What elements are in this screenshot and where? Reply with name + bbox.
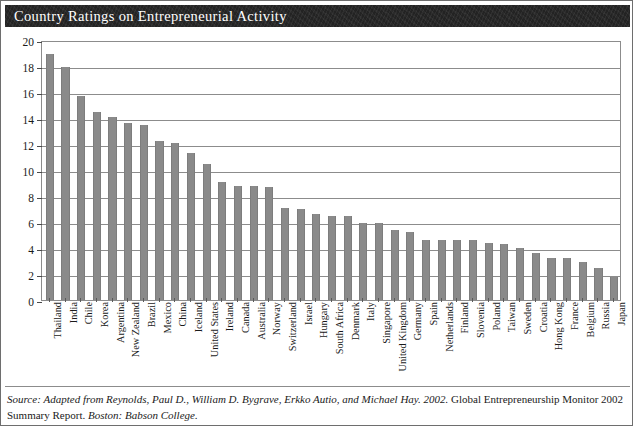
bar-chile (77, 96, 85, 300)
bar-norway (265, 187, 273, 300)
bar-hungary (312, 214, 320, 300)
x-axis-tick (519, 298, 520, 302)
x-axis-label-ireland: Ireland (225, 302, 235, 331)
y-axis-tick-label: 4 (28, 244, 34, 256)
x-axis-label-norway: Norway (272, 302, 282, 335)
x-axis-label-russia: Russia (601, 302, 611, 329)
chart-title-bar: Country Ratings on Entrepreneurial Activ… (5, 5, 630, 27)
x-axis-label-sweden: Sweden (523, 302, 533, 335)
y-axis-tick-label: 8 (28, 192, 34, 204)
x-axis-tick (190, 298, 191, 302)
x-axis-label-south-africa: South Africa (335, 302, 345, 354)
bar-singapore (375, 223, 383, 300)
x-axis-label-argentina: Argentina (116, 302, 126, 343)
x-axis-label-brazil: Brazil (147, 302, 157, 327)
x-axis-label-finland: Finland (460, 302, 470, 333)
bar-spain (422, 240, 430, 300)
x-axis-tick (456, 298, 457, 302)
x-axis-tick (566, 298, 567, 302)
y-axis-tick-label: 18 (23, 62, 35, 74)
x-axis-tick (425, 298, 426, 302)
bar-south-africa (328, 216, 336, 301)
x-axis-label-thailand: Thailand (53, 302, 63, 339)
x-axis-tick (80, 298, 81, 302)
x-axis-tick (96, 298, 97, 302)
bars-group (42, 42, 620, 300)
x-axis-label-spain: Spain (429, 302, 439, 325)
x-axis-label-croatia: Croatia (539, 302, 549, 332)
x-axis-tick (535, 298, 536, 302)
bar-hong-kong (547, 258, 555, 300)
page-title: Country Ratings on Entrepreneurial Activ… (5, 8, 287, 25)
bar-finland (453, 240, 461, 300)
y-axis-tick-label: 12 (23, 140, 35, 152)
bar-mexico (155, 141, 163, 300)
x-axis-tick (49, 298, 50, 302)
y-axis-tick-label: 20 (23, 36, 35, 48)
x-axis-label-singapore: Singapore (382, 302, 392, 344)
x-axis-label-hungary: Hungary (319, 302, 329, 338)
bar-united-states (203, 164, 211, 301)
x-axis-tick (127, 298, 128, 302)
x-axis-tick (112, 298, 113, 302)
x-axis-label-japan: Japan (617, 302, 627, 325)
source-label: Source: (7, 393, 41, 405)
bar-germany (406, 232, 414, 300)
x-axis-tick (597, 298, 598, 302)
x-axis-label-iceland: Iceland (194, 302, 204, 332)
source-italic-2: Boston: Babson College. (88, 409, 198, 421)
y-axis-tick-label: 16 (23, 88, 35, 100)
source-italic-1: Adapted from Reynolds, Paul D., William … (44, 393, 449, 405)
x-axis-tick (503, 298, 504, 302)
bar-sweden (516, 248, 524, 300)
x-axis-label-italy: Italy (366, 302, 376, 321)
y-axis-tick-label: 2 (28, 270, 34, 282)
x-axis-tick (174, 298, 175, 302)
bar-korea (93, 112, 101, 301)
x-axis-tick (582, 298, 583, 302)
x-axis-label-france: France (570, 302, 580, 330)
bar-denmark (344, 216, 352, 301)
bar-israel (297, 209, 305, 300)
source-note: Source: Adapted from Reynolds, Paul D., … (7, 392, 625, 424)
x-axis-tick (206, 298, 207, 302)
bar-russia (594, 268, 602, 301)
x-axis-tick (441, 298, 442, 302)
x-axis-label-hong-kong: Hong Kong (554, 302, 564, 350)
bar-thailand (46, 54, 54, 300)
x-axis-tick (362, 298, 363, 302)
bar-france (563, 258, 571, 300)
y-axis-tick-label: 0 (28, 296, 34, 308)
x-axis-label-germany: Germany (413, 302, 423, 340)
x-axis-label-israel: Israel (304, 302, 314, 325)
bar-belgium (579, 262, 587, 300)
y-axis-tick-label: 6 (28, 218, 34, 230)
x-axis-label-united-states: United States (210, 302, 220, 357)
x-axis-tick (221, 298, 222, 302)
x-axis-label-taiwan: Taiwan (507, 302, 517, 332)
y-axis-tick-label: 14 (23, 114, 35, 126)
x-axis-tick (394, 298, 395, 302)
bar-iceland (187, 153, 195, 300)
x-axis-tick (284, 298, 285, 302)
figure-container: Country Ratings on Entrepreneurial Activ… (0, 0, 633, 426)
x-axis-tick (488, 298, 489, 302)
x-axis-label-denmark: Denmark (351, 302, 361, 340)
bar-slovenia (469, 240, 477, 300)
x-axis-label-belgium: Belgium (586, 302, 596, 337)
x-axis-tick (613, 298, 614, 302)
x-axis-tick (409, 298, 410, 302)
plot-area: 02468101214161820 (41, 41, 621, 301)
x-axis-label-united-kingdom: United Kingdom (398, 302, 408, 372)
x-axis-label-australia: Australia (257, 302, 267, 340)
x-axis-category-labels: ThailandIndiaChileKoreaArgentinaNew Zeal… (41, 302, 621, 376)
x-axis-tick (378, 298, 379, 302)
x-axis-tick (159, 298, 160, 302)
x-axis-tick (550, 298, 551, 302)
x-axis-label-poland: Poland (492, 302, 502, 331)
x-axis-label-chile: Chile (84, 302, 94, 324)
bar-india (61, 67, 69, 300)
bar-netherlands (438, 240, 446, 300)
x-axis-tick (331, 298, 332, 302)
x-axis-label-mexico: Mexico (163, 302, 173, 333)
